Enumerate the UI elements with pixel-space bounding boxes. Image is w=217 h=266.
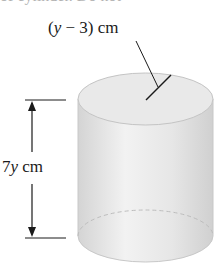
arrowhead-down-icon	[28, 227, 36, 237]
cylinder-top	[78, 73, 213, 125]
height-label: 7y cm	[2, 157, 43, 177]
arrowhead-up-icon	[28, 101, 36, 111]
cylinder-diagram	[0, 0, 217, 266]
radius-label: (y − 3) cm	[48, 18, 119, 38]
